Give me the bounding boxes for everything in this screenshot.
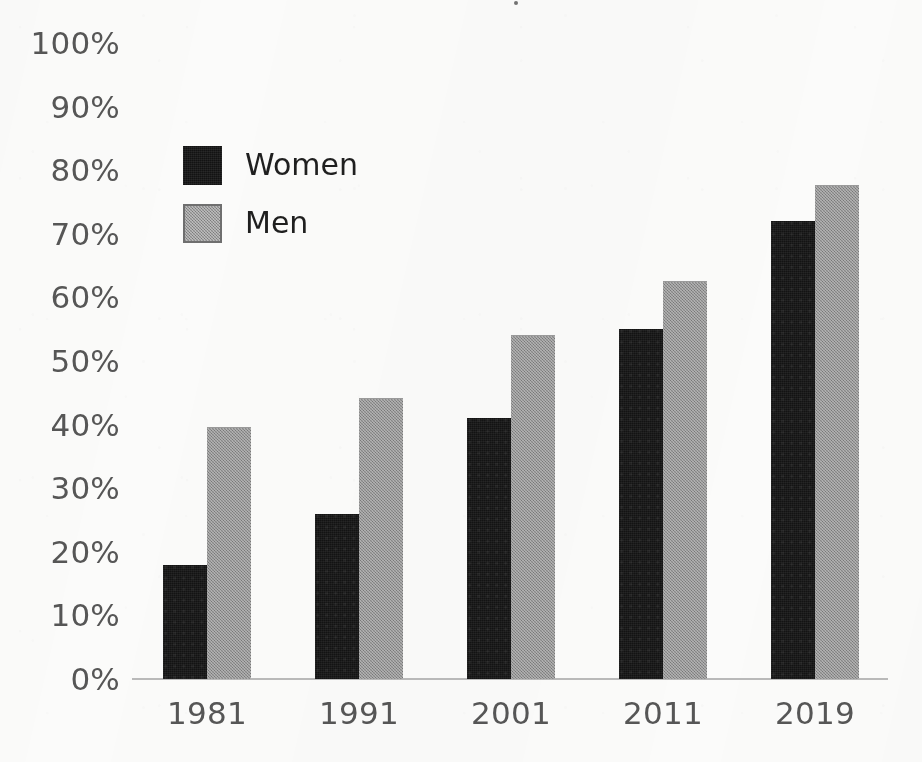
bar-women-2011[interactable] xyxy=(619,329,663,679)
y-axis-tick-label: 70% xyxy=(0,218,120,249)
legend-swatch-men-icon xyxy=(183,204,222,243)
x-axis-tick-label: 2011 xyxy=(583,698,743,729)
y-axis-tick-label: 30% xyxy=(0,473,120,504)
bar-group-2001 xyxy=(467,24,555,679)
y-axis-tick-label: 50% xyxy=(0,346,120,377)
plot-area xyxy=(132,30,888,685)
bar-chart-figure: 100%90%80%70%60%50%40%30%20%10%0% 198119… xyxy=(0,0,922,762)
y-axis-tick-label: 80% xyxy=(0,155,120,186)
y-axis-tick-label: 0% xyxy=(0,664,120,695)
bar-men-1991[interactable] xyxy=(359,398,403,679)
y-axis-tick-label: 40% xyxy=(0,409,120,440)
chart-legend: Women Men xyxy=(183,136,358,252)
bar-women-1981[interactable] xyxy=(163,565,207,679)
bar-group-2019 xyxy=(771,24,859,679)
y-axis-tick-label: 20% xyxy=(0,536,120,567)
bar-women-1991[interactable] xyxy=(315,514,359,679)
scan-speck xyxy=(514,1,518,5)
legend-item-men[interactable]: Men xyxy=(183,194,358,252)
x-axis-tick-label: 2019 xyxy=(735,698,895,729)
bar-group-1991 xyxy=(315,24,403,679)
legend-swatch-women-icon xyxy=(183,146,222,185)
bar-men-2001[interactable] xyxy=(511,335,555,679)
legend-label-men: Men xyxy=(245,208,308,238)
y-axis-tick-label: 90% xyxy=(0,91,120,122)
x-axis-tick-label: 1991 xyxy=(279,698,439,729)
bar-men-2019[interactable] xyxy=(815,185,859,679)
x-axis-tick-label: 1981 xyxy=(127,698,287,729)
bar-men-2011[interactable] xyxy=(663,281,707,680)
x-axis-tick-label: 2001 xyxy=(431,698,591,729)
bar-group-2011 xyxy=(619,24,707,679)
legend-label-women: Women xyxy=(245,150,358,180)
y-axis-tick-label: 60% xyxy=(0,282,120,313)
legend-item-women[interactable]: Women xyxy=(183,136,358,194)
y-axis-tick-label: 10% xyxy=(0,600,120,631)
y-axis-tick-label: 100% xyxy=(0,28,120,59)
bar-women-2019[interactable] xyxy=(771,221,815,679)
bar-women-2001[interactable] xyxy=(467,418,511,679)
bar-men-1981[interactable] xyxy=(207,427,251,679)
bar-group-1981 xyxy=(163,24,251,679)
